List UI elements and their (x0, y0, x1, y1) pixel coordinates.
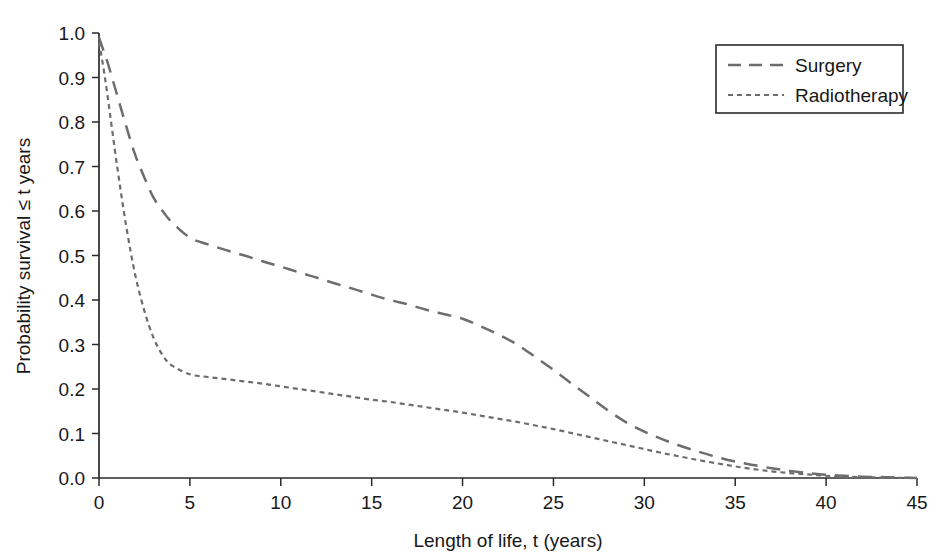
y-tick-label: 1.0 (59, 23, 85, 44)
x-tick-label: 5 (185, 492, 196, 513)
x-tick-label: 40 (816, 492, 837, 513)
y-tick-label: 0.3 (59, 335, 85, 356)
y-tick-label: 0.6 (59, 201, 85, 222)
y-axis-ticks: 0.00.10.20.30.40.50.60.70.80.91.0 (59, 23, 99, 489)
x-tick-label: 15 (361, 492, 382, 513)
x-axis-title: Length of life, t (years) (413, 530, 602, 551)
x-tick-label: 10 (270, 492, 291, 513)
legend-item-radiotherapy-label: Radiotherapy (795, 85, 909, 106)
y-tick-label: 0.7 (59, 157, 85, 178)
survival-curve-chart: 0.00.10.20.30.40.50.60.70.80.91.0 051015… (0, 0, 949, 558)
x-tick-label: 35 (725, 492, 746, 513)
y-axis-title: Probability survival ≤ t years (13, 138, 34, 374)
y-tick-label: 0.2 (59, 379, 85, 400)
x-tick-label: 45 (906, 492, 927, 513)
x-tick-label: 0 (94, 492, 105, 513)
legend: Surgery Radiotherapy (716, 45, 909, 113)
chart-figure: 0.00.10.20.30.40.50.60.70.80.91.0 051015… (0, 0, 949, 558)
x-axis-ticks: 051015202530354045 (94, 478, 928, 513)
y-tick-label: 0.9 (59, 68, 85, 89)
y-tick-label: 0.8 (59, 112, 85, 133)
y-tick-label: 0.1 (59, 424, 85, 445)
legend-item-surgery-label: Surgery (795, 55, 862, 76)
y-tick-label: 0.5 (59, 246, 85, 267)
y-tick-label: 0.4 (59, 290, 86, 311)
y-tick-label: 0.0 (59, 468, 85, 489)
x-tick-label: 25 (543, 492, 564, 513)
x-tick-label: 30 (634, 492, 655, 513)
x-tick-label: 20 (452, 492, 473, 513)
